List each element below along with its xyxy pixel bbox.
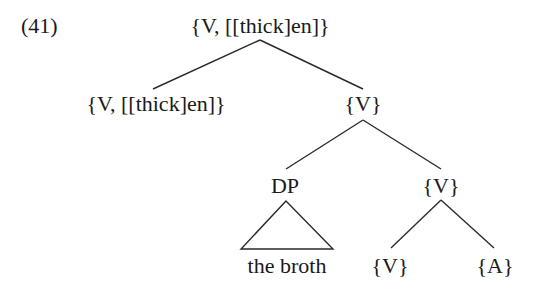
dp-terminal: the broth — [248, 254, 327, 278]
right-child-node: {V} — [344, 92, 381, 116]
dp-triangle — [241, 201, 333, 249]
branch-inner-leafa — [441, 200, 494, 248]
tree-branches — [0, 0, 537, 291]
left-child-node: {V, [[thick]en]} — [86, 92, 225, 116]
inner-v-node: {V} — [422, 174, 459, 198]
branch-root-left — [153, 40, 260, 89]
leaf-v-node: {V} — [371, 254, 408, 278]
example-number: (41) — [21, 14, 58, 38]
dp-node: DP — [271, 174, 299, 198]
branch-root-right — [260, 40, 363, 89]
root-node: {V, [[thick]en]} — [190, 14, 329, 38]
leaf-a-node: {A} — [476, 254, 513, 278]
branch-inner-leafv — [391, 200, 441, 248]
branch-v-dp — [286, 120, 363, 169]
branch-v-v — [363, 120, 441, 169]
